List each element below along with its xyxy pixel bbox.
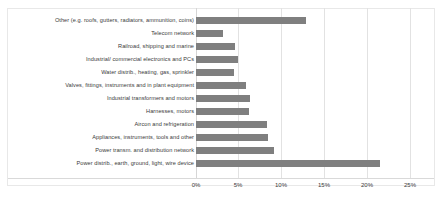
bar-value	[196, 43, 235, 50]
bar-value	[196, 121, 267, 128]
bar-chart: Other (e.g. roofs, gutters, radiators, a…	[0, 0, 442, 206]
category-label: Power distrib., earth, ground, light, wi…	[14, 157, 194, 170]
bar-value	[196, 56, 238, 63]
bar-row: Water distrib., heating, gas, sprinkler	[0, 66, 442, 79]
x-tick-label: 10%	[261, 179, 301, 191]
bar-row: Railroad, shipping and marine	[0, 40, 442, 53]
x-tick-label: 0%	[176, 179, 216, 191]
bar-value	[196, 134, 268, 141]
category-label: Power transm. and distribution network	[14, 144, 194, 157]
bar-rows: Other (e.g. roofs, gutters, radiators, a…	[0, 0, 442, 206]
x-tick-label: 5%	[218, 179, 258, 191]
category-label: Aircon and refrigeration	[14, 118, 194, 131]
bar-row: Valves, fittings, instruments and in pla…	[0, 79, 442, 92]
bar-row: Appliances, instruments, tools and other	[0, 131, 442, 144]
bar-value	[196, 147, 274, 154]
category-label: Railroad, shipping and marine	[14, 40, 194, 53]
x-tick-label: 15%	[304, 179, 344, 191]
bar-value	[196, 82, 246, 89]
bar-row: Harnesses, motors	[0, 105, 442, 118]
x-axis-ticks: 0% 5% 10% 15% 20% 25%	[0, 179, 442, 193]
bar-row: Industrial/ commercial electronics and P…	[0, 53, 442, 66]
category-label: Appliances, instruments, tools and other	[14, 131, 194, 144]
bar-row: Power transm. and distribution network	[0, 144, 442, 157]
bar-value	[196, 108, 249, 115]
bar-value	[196, 69, 234, 76]
category-label: Telecom network	[14, 27, 194, 40]
bar-row: Other (e.g. roofs, gutters, radiators, a…	[0, 14, 442, 27]
category-label: Water distrib., heating, gas, sprinkler	[14, 66, 194, 79]
bar-row: Industrial transformers and motors	[0, 92, 442, 105]
x-tick-label: 20%	[347, 179, 387, 191]
bar-value	[196, 95, 250, 102]
bar-row: Aircon and refrigeration	[0, 118, 442, 131]
bar-value	[196, 30, 223, 37]
category-label: Industrial transformers and motors	[14, 92, 194, 105]
category-label: Industrial/ commercial electronics and P…	[14, 53, 194, 66]
bar-row: Power distrib., earth, ground, light, wi…	[0, 157, 442, 170]
bar-row: Telecom network	[0, 27, 442, 40]
category-label: Other (e.g. roofs, gutters, radiators, a…	[14, 14, 194, 27]
category-label: Harnesses, motors	[14, 105, 194, 118]
bar-value	[196, 17, 306, 24]
x-tick-label: 25%	[390, 179, 430, 191]
bar-value	[196, 160, 380, 167]
category-label: Valves, fittings, instruments and in pla…	[14, 79, 194, 92]
